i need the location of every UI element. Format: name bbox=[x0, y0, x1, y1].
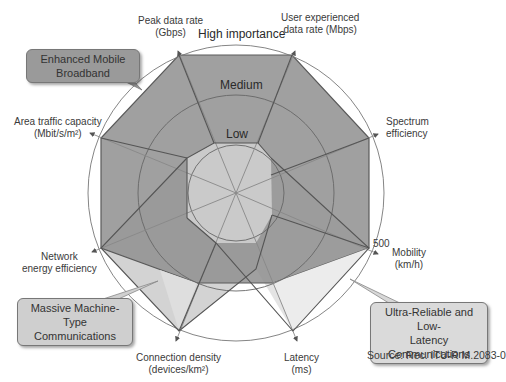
callout-text: Communications bbox=[22, 329, 128, 343]
level-medium-label: Medium bbox=[220, 78, 263, 92]
axis-label-line: energy efficiency bbox=[22, 263, 97, 275]
callout-embb: Enhanced Mobile Broadband bbox=[26, 49, 140, 83]
axis-label-connection: Connection density (devices/km²) bbox=[136, 352, 221, 376]
axis-label-line: (km/h) bbox=[392, 259, 426, 271]
axis-label-line: (ms) bbox=[284, 364, 319, 376]
axis-label-line: Mobility bbox=[392, 247, 426, 259]
axis-label-line: Area traffic capacity bbox=[14, 116, 102, 128]
axis-label-area: Area traffic capacity (Mbit/s/m²) bbox=[14, 116, 102, 140]
axis-label-mobility: Mobility (km/h) bbox=[392, 247, 426, 271]
axis-label-line: (Mbit/s/m²) bbox=[14, 128, 102, 140]
axis-label-line: User experienced bbox=[281, 12, 359, 24]
callout-text: Ultra-Reliable and Low- bbox=[375, 305, 483, 333]
level-low-label: Low bbox=[226, 127, 248, 141]
axis-label-line: Connection density bbox=[136, 352, 221, 364]
callout-text: Massive Machine-Type bbox=[22, 301, 128, 329]
axis-label-line: (Gbps) bbox=[138, 27, 203, 39]
axis-label-line: Latency bbox=[284, 352, 319, 364]
axis-label-spectrum: Spectrum efficiency bbox=[386, 116, 429, 140]
low-core bbox=[187, 143, 272, 243]
axis-label-latency: Latency (ms) bbox=[284, 352, 319, 376]
axis-label-line: Spectrum bbox=[386, 116, 429, 128]
callout-text: Enhanced Mobile bbox=[31, 52, 135, 66]
axis-label-peak: Peak data rate (Gbps) bbox=[138, 15, 203, 39]
axis-label-line: data rate (Mbps) bbox=[281, 24, 359, 36]
level-high-label: High importance bbox=[198, 27, 285, 41]
axis-label-energy: Network energy efficiency bbox=[22, 251, 97, 275]
source-caption: Source: Rec. ITU-R M.2083-0 bbox=[367, 349, 506, 361]
axis-label-line: Network bbox=[22, 251, 97, 263]
axis-label-line: (devices/km²) bbox=[136, 364, 221, 376]
mobility-tick-500: 500 bbox=[373, 238, 390, 250]
axis-label-line: efficiency bbox=[386, 128, 429, 140]
callout-text: Broadband bbox=[31, 66, 135, 80]
axis-label-user: User experienced data rate (Mbps) bbox=[281, 12, 359, 36]
axis-label-line: Peak data rate bbox=[138, 15, 203, 27]
callout-mmtc: Massive Machine-Type Communications bbox=[17, 298, 133, 346]
